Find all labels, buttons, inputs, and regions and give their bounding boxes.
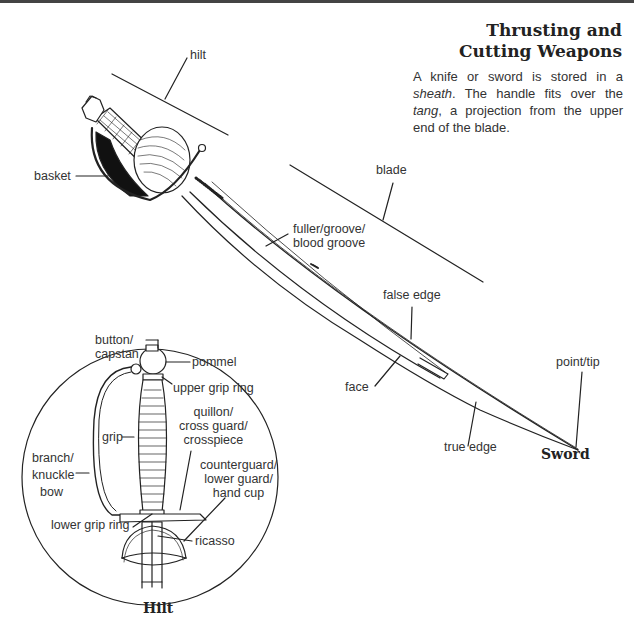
label-branch: branch/ knuckle bow — [32, 450, 74, 501]
label-branch-line3: bow — [32, 484, 74, 501]
blade-inner-line — [190, 192, 440, 378]
label-quillon-line3: crosspiece — [179, 433, 248, 447]
label-pommel: pommel — [192, 355, 236, 369]
quillon-leader — [180, 451, 191, 510]
fuller — [212, 182, 445, 372]
hilt-leader — [165, 58, 187, 99]
label-quillon: quillon/ cross guard/ crosspiece — [179, 405, 248, 447]
blade-back-edge — [200, 180, 578, 450]
label-fuller-line2: blood groove — [293, 236, 365, 250]
pommel-shape — [140, 348, 166, 374]
blade-leader — [383, 183, 393, 220]
label-hilt: hilt — [190, 48, 206, 62]
label-face: face — [345, 380, 369, 394]
label-blade: blade — [376, 163, 407, 177]
label-ricasso: ricasso — [195, 534, 235, 548]
label-lower-grip-ring: lower grip ring — [51, 518, 130, 532]
label-fuller: fuller/groove/ blood groove — [293, 222, 365, 250]
label-button-line2: capstan — [95, 347, 139, 361]
label-point: point/tip — [556, 355, 600, 369]
label-counterguard-line2: lower guard/ — [200, 472, 277, 486]
caption-hilt: Hilt — [143, 600, 173, 616]
label-fuller-line1: fuller/groove/ — [293, 222, 365, 236]
label-basket: basket — [34, 169, 71, 183]
sword-illustration — [0, 0, 634, 633]
label-button-line1: button/ — [95, 333, 139, 347]
cross-guard — [120, 514, 206, 522]
label-counterguard-line3: hand cup — [200, 486, 277, 500]
label-branch-line2: knuckle — [32, 467, 74, 484]
caption-sword: Sword — [541, 446, 590, 462]
label-quillon-line1: quillon/ — [179, 405, 248, 419]
upper-grip-ring-leader — [162, 377, 172, 384]
label-counterguard: counterguard/ lower guard/ hand cup — [200, 458, 277, 500]
label-grip: grip — [102, 430, 123, 444]
label-upper-grip-ring: upper grip ring — [173, 381, 254, 395]
label-quillon-line2: cross guard/ — [179, 419, 248, 433]
label-true-edge: true edge — [444, 440, 497, 454]
label-branch-line1: branch/ — [32, 450, 74, 467]
label-counterguard-line1: counterguard/ — [200, 458, 277, 472]
label-false-edge: false edge — [383, 288, 441, 302]
label-button: button/ capstan — [95, 333, 139, 361]
